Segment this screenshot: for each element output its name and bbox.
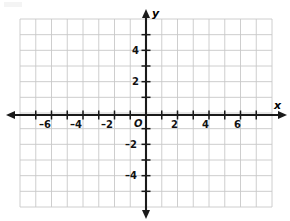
x-axis-label: x — [274, 100, 281, 111]
x-axis-arrow-left — [6, 111, 15, 119]
y-tick-label-neg4: –4 — [125, 171, 137, 181]
y-axis-arrow-bottom — [142, 210, 150, 219]
x-tick-label-neg4: –4 — [70, 120, 82, 130]
coordinate-plane-figure: –6 –4 –2 2 4 6 4 2 –2 –4 O y x — [0, 0, 290, 221]
y-tick-label-2: 2 — [132, 77, 139, 87]
origin-label: O — [134, 119, 143, 129]
x-axis-arrow-right — [278, 111, 287, 119]
x-tick-label-2: 2 — [171, 120, 178, 130]
y-axis-arrow-top — [142, 9, 150, 18]
x-tick-label-neg6: –6 — [39, 120, 51, 130]
y-tick-label-neg2: –2 — [125, 140, 137, 150]
y-tick-label-4: 4 — [132, 46, 139, 56]
scan-artifact — [4, 2, 22, 7]
x-tick-label-4: 4 — [202, 120, 209, 130]
coordinate-grid-svg — [0, 0, 290, 221]
x-tick-label-6: 6 — [234, 120, 241, 130]
x-tick-label-neg2: –2 — [101, 120, 113, 130]
y-axis-label: y — [152, 8, 159, 19]
